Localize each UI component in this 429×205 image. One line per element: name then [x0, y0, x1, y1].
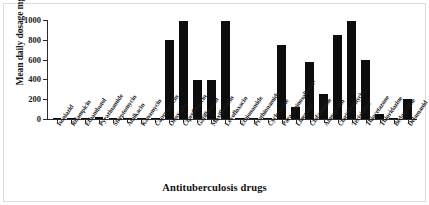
y-axis-tick — [43, 99, 48, 100]
y-axis-tick-label: 1000 — [24, 15, 41, 25]
y-axis-tick — [43, 20, 48, 21]
y-axis-tick-label: 200 — [28, 94, 41, 104]
x-axis-tick-labels: IsoniazidRifampicinEthambutolPyrazinamid… — [47, 123, 416, 181]
y-axis-tick-label: 800 — [28, 35, 41, 45]
x-axis-title: Antituberculosis drugs — [0, 182, 429, 193]
bar-slot — [50, 20, 64, 119]
chart-figure: Mean daily dosage mg/kg 0200400600800100… — [0, 0, 429, 205]
y-axis-tick-label: 0 — [37, 114, 41, 124]
y-axis-tick — [43, 60, 48, 61]
y-axis-tick — [43, 119, 48, 120]
y-axis-tick-label: 400 — [28, 74, 41, 84]
y-axis-tick-label: 600 — [28, 55, 41, 65]
y-axis-tick — [43, 79, 48, 80]
y-axis-tick — [43, 40, 48, 41]
